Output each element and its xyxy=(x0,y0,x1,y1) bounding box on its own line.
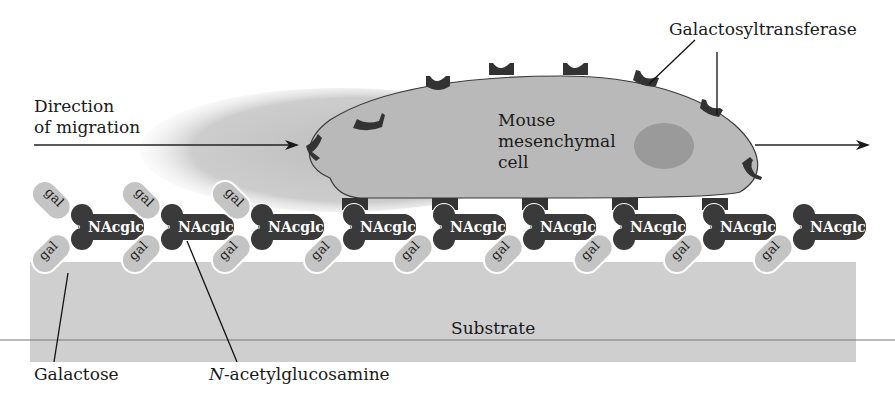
nacetylglucosamine-label: N-acetylglucosamine xyxy=(209,364,390,385)
nacglc-label: NAcglc xyxy=(810,219,866,235)
nacglc-label: NAcglc xyxy=(540,219,596,235)
cell-label-line1: Mouse xyxy=(498,110,616,131)
receptor-icon xyxy=(426,76,450,90)
nacglc-label: NAcglc xyxy=(630,219,686,235)
receptor-icon xyxy=(489,63,514,75)
nacglc-label: NAcglc xyxy=(450,219,506,235)
nacetyl-prefix: N xyxy=(209,364,224,384)
galactosyltransferase-label: Galactosyltransferase xyxy=(669,19,857,40)
galactose-unit: gal xyxy=(27,176,76,225)
nacglc-label: NAcglc xyxy=(268,219,324,235)
substrate-label: Substrate xyxy=(451,318,535,339)
nacetyl-rest: -acetylglucosamine xyxy=(224,364,390,384)
direction-label-line1: Direction xyxy=(34,96,140,117)
direction-label: Direction of migration xyxy=(34,96,140,138)
nacglc-label: NAcglc xyxy=(720,219,776,235)
galactose-label: Galactose xyxy=(34,364,119,385)
substrate-block xyxy=(30,262,856,362)
diagram-canvas: galgalNAcglcgalgalNAcglcgalgalNAcglcgalN… xyxy=(0,0,895,409)
nacglc-label: NAcglc xyxy=(88,219,144,235)
direction-label-line2: of migration xyxy=(34,117,140,138)
nacglc-label: NAcglc xyxy=(178,219,234,235)
receptor-icon xyxy=(563,63,588,75)
cell-label: Mouse mesenchymal cell xyxy=(498,110,616,173)
nacglc-label: NAcglc xyxy=(360,219,416,235)
galactosyltransferase-leader-1 xyxy=(649,40,695,84)
nucleus xyxy=(634,123,694,169)
migration-diagram: galgalNAcglcgalgalNAcglcgalgalNAcglcgalN… xyxy=(0,0,895,409)
cell-label-line2: mesenchymal xyxy=(498,131,616,152)
cell-label-line3: cell xyxy=(498,152,616,173)
